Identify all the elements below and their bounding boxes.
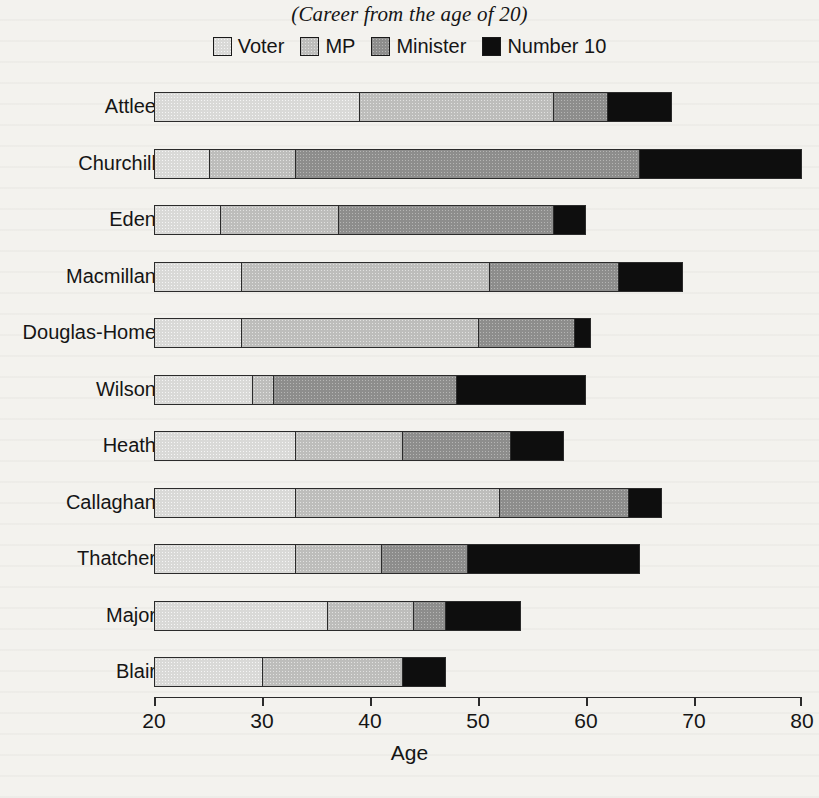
- bar-segment-voter: [155, 150, 209, 178]
- stacked-bar: [154, 544, 640, 574]
- legend-item-voter: Voter: [213, 36, 285, 56]
- bar-segment-voter: [155, 545, 295, 573]
- x-axis-tick: [694, 697, 696, 706]
- x-axis-tick-label: 80: [790, 709, 813, 733]
- stacked-bar: [154, 488, 662, 518]
- bar-row: Major: [0, 597, 819, 633]
- bar-segment-minister: [489, 263, 618, 291]
- bar-segment-minister: [295, 150, 640, 178]
- stacked-bar: [154, 149, 802, 179]
- stacked-bar: [154, 92, 672, 122]
- stacked-bar: [154, 205, 586, 235]
- bar-label-wilson: Wilson: [96, 377, 156, 400]
- legend-item-mp: MP: [300, 36, 355, 56]
- bar-segment-mp: [295, 432, 402, 460]
- bar-segment-number10: [607, 93, 672, 121]
- bar-row: Callaghan: [0, 484, 819, 520]
- bar-segment-mp: [262, 658, 401, 686]
- bar-label-blair: Blair: [116, 660, 156, 683]
- bar-label-thatcher: Thatcher: [77, 547, 156, 570]
- bar-segment-minister: [478, 319, 575, 347]
- chart-legend: VoterMPMinisterNumber 10: [0, 36, 819, 56]
- bar-row: Heath: [0, 427, 819, 463]
- bar-segment-number10: [467, 545, 639, 573]
- x-axis-tick: [370, 697, 372, 706]
- legend-swatch-minister: [371, 37, 390, 56]
- legend-swatch-voter: [213, 37, 232, 56]
- stacked-bar: [154, 375, 586, 405]
- bar-segment-minister: [273, 376, 456, 404]
- legend-label-number10: Number 10: [507, 36, 606, 56]
- x-axis-tick-label: 20: [142, 709, 165, 733]
- bar-row: Blair: [0, 653, 819, 689]
- bar-segment-voter: [155, 206, 220, 234]
- legend-item-number10: Number 10: [482, 36, 606, 56]
- bar-segment-number10: [639, 150, 801, 178]
- x-axis-tick: [800, 697, 802, 706]
- bar-segment-voter: [155, 319, 241, 347]
- bar-segment-voter: [155, 489, 295, 517]
- legend-label-minister: Minister: [396, 36, 466, 56]
- x-axis-tick-label: 60: [574, 709, 597, 733]
- bar-segment-minister: [499, 489, 628, 517]
- legend-item-minister: Minister: [371, 36, 466, 56]
- x-axis-tick: [478, 697, 480, 706]
- bar-segment-voter: [155, 263, 241, 291]
- x-axis-tick-label: 40: [358, 709, 381, 733]
- x-axis-tick-label: 50: [466, 709, 489, 733]
- bar-segment-mp: [295, 489, 499, 517]
- bar-segment-number10: [456, 376, 585, 404]
- bar-segment-mp: [220, 206, 338, 234]
- bar-segment-mp: [209, 150, 295, 178]
- bar-segment-voter: [155, 432, 295, 460]
- x-axis-tick-label: 70: [682, 709, 705, 733]
- bar-segment-voter: [155, 93, 359, 121]
- chart-subtitle: (Career from the age of 20): [0, 2, 819, 27]
- x-axis-tick: [262, 697, 264, 706]
- bar-segment-number10: [574, 319, 590, 347]
- legend-label-mp: MP: [325, 36, 355, 56]
- bar-row: Wilson: [0, 371, 819, 407]
- bar-label-eden: Eden: [109, 208, 156, 231]
- bar-segment-voter: [155, 602, 327, 630]
- bar-row: Macmillan: [0, 258, 819, 294]
- prime-ministers-career-chart: (Career from the age of 20) VoterMPMinis…: [0, 0, 819, 798]
- bar-label-douglas-home: Douglas-Home: [23, 321, 156, 344]
- bar-segment-minister: [338, 206, 553, 234]
- plot-area: AttleeChurchillEdenMacmillanDouglas-Home…: [0, 88, 819, 728]
- bar-label-major: Major: [106, 603, 156, 626]
- stacked-bar: [154, 262, 683, 292]
- bar-segment-mp: [327, 602, 413, 630]
- stacked-bar: [154, 318, 591, 348]
- bar-row: Douglas-Home: [0, 314, 819, 350]
- bar-label-callaghan: Callaghan: [66, 490, 156, 513]
- bar-segment-mp: [359, 93, 553, 121]
- stacked-bar: [154, 431, 564, 461]
- bar-segment-minister: [381, 545, 467, 573]
- bar-segment-mp: [241, 263, 488, 291]
- bar-segment-mp: [252, 376, 274, 404]
- legend-label-voter: Voter: [238, 36, 285, 56]
- bar-segment-voter: [155, 376, 252, 404]
- x-axis-tick: [586, 697, 588, 706]
- bar-label-attlee: Attlee: [105, 95, 156, 118]
- bar-segment-mp: [241, 319, 478, 347]
- x-axis-tick-label: 30: [250, 709, 273, 733]
- legend-swatch-number10: [482, 37, 501, 56]
- bar-segment-number10: [628, 489, 660, 517]
- bar-segment-minister: [553, 93, 607, 121]
- bar-segment-number10: [445, 602, 520, 630]
- bar-segment-voter: [155, 658, 262, 686]
- bar-segment-minister: [402, 432, 509, 460]
- bar-segment-number10: [402, 658, 445, 686]
- stacked-bar: [154, 657, 446, 687]
- bar-segment-mp: [295, 545, 381, 573]
- stacked-bar: [154, 601, 521, 631]
- bar-segment-number10: [553, 206, 585, 234]
- bar-label-macmillan: Macmillan: [66, 264, 156, 287]
- bar-row: Eden: [0, 201, 819, 237]
- bar-segment-number10: [510, 432, 564, 460]
- x-axis-title: Age: [0, 741, 819, 765]
- bar-segment-number10: [618, 263, 683, 291]
- bar-label-churchill: Churchill: [78, 151, 156, 174]
